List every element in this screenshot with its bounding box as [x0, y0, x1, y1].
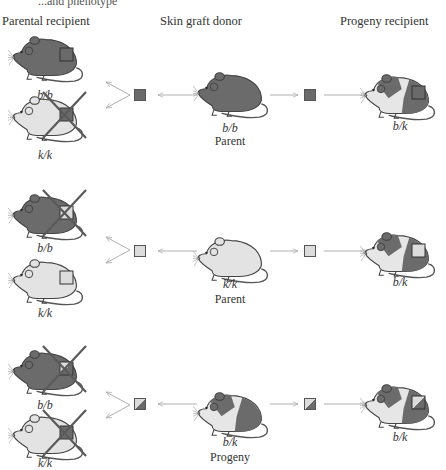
graft-square-split — [134, 398, 146, 410]
graft-patch-dark — [412, 86, 425, 99]
genotype-label: k/k — [20, 456, 70, 470]
graft-patch-split — [412, 396, 425, 409]
genotype-label: k/k — [20, 306, 70, 321]
genotype-label: k/k — [20, 148, 70, 163]
caption-fragment: ...and phenotype — [38, 0, 117, 9]
genotype-label: b/k — [375, 119, 425, 134]
donor-genotype: b/k — [205, 435, 255, 450]
graft-patch-dark — [60, 48, 73, 61]
donor-role: Parent — [195, 292, 265, 307]
genotype-label: b/k — [375, 430, 425, 445]
graft-square-split — [304, 398, 316, 410]
mouse-recipient-bb-row2-rejected — [8, 190, 84, 242]
mouse-donor-bb — [193, 68, 269, 120]
graft-square-dark — [304, 89, 316, 101]
mouse-recipient-bb-row1 — [8, 32, 84, 84]
graft-square-dark — [134, 89, 146, 101]
graft-square-light — [304, 245, 316, 257]
genotype-label: b/k — [375, 275, 425, 290]
graft-patch-light — [412, 244, 425, 257]
mouse-recipient-kk-row3-rejected — [8, 410, 84, 462]
arrow-right — [268, 246, 303, 256]
arrow-right — [268, 399, 303, 409]
mouse-progeny-recipient-row2 — [360, 228, 436, 280]
mouse-recipient-kk-row2 — [8, 255, 84, 307]
header-skin-graft-donor: Skin graft donor — [160, 14, 242, 29]
mouse-donor-bk — [193, 388, 269, 440]
graft-square-light — [134, 245, 146, 257]
header-parental-recipient: Parental recipient — [2, 14, 90, 29]
mouse-progeny-recipient-row1 — [360, 70, 436, 122]
donor-role: Progeny — [195, 450, 265, 465]
donor-genotype: k/k — [205, 277, 255, 292]
mouse-recipient-kk-row1-rejected — [8, 92, 84, 144]
donor-role: Parent — [195, 134, 265, 149]
graft-patch-light — [60, 271, 73, 284]
mouse-recipient-bb-row3-rejected — [8, 346, 84, 398]
mouse-progeny-recipient-row3 — [360, 380, 436, 432]
header-progeny-recipient: Progeny recipient — [340, 14, 429, 29]
genotype-label: b/b — [20, 241, 70, 256]
arrow-right — [268, 90, 303, 100]
